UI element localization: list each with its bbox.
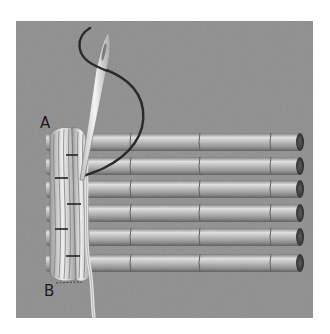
illustration: A B bbox=[0, 0, 330, 334]
label-end: B bbox=[44, 284, 54, 299]
label-start: A bbox=[40, 116, 50, 131]
